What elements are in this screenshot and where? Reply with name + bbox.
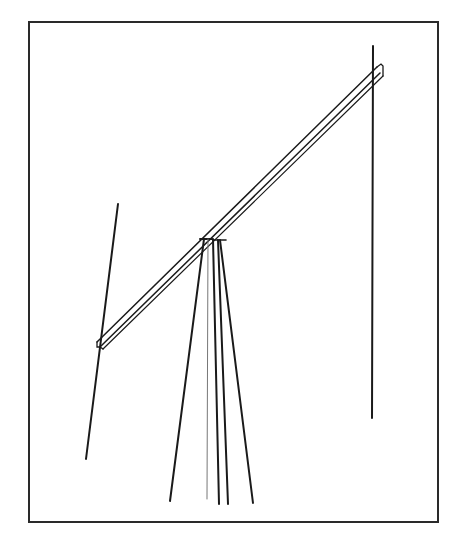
mast-thin: [207, 239, 208, 499]
guy-right: [220, 240, 253, 503]
left-element: [86, 204, 118, 459]
mast-right: [218, 240, 228, 504]
right-element: [372, 46, 373, 418]
boom: [97, 64, 383, 349]
mast-left: [213, 239, 219, 504]
antenna-drawing: [0, 0, 471, 540]
